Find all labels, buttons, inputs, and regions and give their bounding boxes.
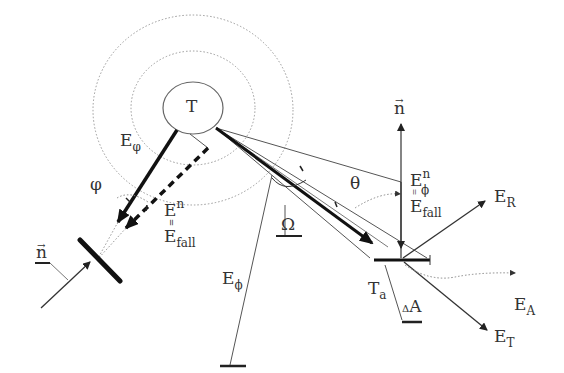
left-surface xyxy=(80,240,120,281)
t-a-label: Ta xyxy=(368,280,387,301)
right-equal-label: = xyxy=(410,189,418,196)
left-e-n-label: En xyxy=(164,198,184,219)
left-normal-label: n xyxy=(36,244,47,261)
omega-label: Ω xyxy=(281,216,295,233)
e-t-label: ET xyxy=(494,328,514,349)
theta-label: θ xyxy=(350,175,360,192)
phi-angle-label: φ xyxy=(90,176,102,193)
e-phi-bottom-label: Eϕ xyxy=(222,270,243,291)
delta-a-label: ΔA xyxy=(402,298,422,315)
target-label: T xyxy=(186,98,197,115)
radiation-diagram xyxy=(0,0,564,373)
left-normal-arrow xyxy=(41,262,90,308)
right-e-fall-label: Efall xyxy=(410,198,442,219)
left-e-fall-label: Efall xyxy=(164,228,196,249)
e-r-label: ER xyxy=(494,188,515,209)
e-a-label: EA xyxy=(514,296,535,317)
right-normal-label: n xyxy=(394,100,405,117)
e-phi-top-label: Eφ xyxy=(120,132,141,153)
right-e-n-sub-label: ϕ xyxy=(421,184,429,196)
